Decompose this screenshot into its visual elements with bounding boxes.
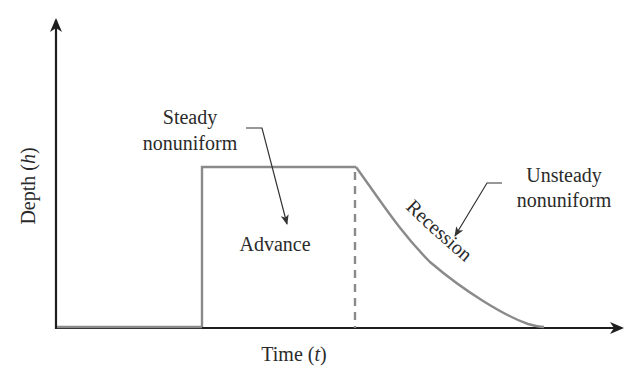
y-axis-label-close: ) (17, 147, 40, 154)
depth-time-diagram: Steady nonuniform Unsteady nonuniform Ad… (0, 0, 638, 388)
steady-label-line2: nonuniform (143, 132, 238, 154)
steady-leader-arrow (246, 128, 287, 224)
unsteady-label-line1: Unsteady (526, 164, 602, 187)
leaders (246, 128, 502, 236)
advance-label: Advance (239, 233, 310, 255)
recession-label-text: Recession (402, 195, 477, 265)
x-axis-label-main: Time ( (261, 343, 315, 366)
x-axis-label: Time (t) (261, 343, 326, 366)
y-axis-label-var: h (17, 154, 39, 164)
unsteady-leader-arrow (455, 183, 502, 236)
steady-label-line1: Steady (163, 106, 217, 129)
y-axis-label-main: Depth ( (17, 164, 40, 225)
unsteady-label-line2: nonuniform (517, 189, 612, 211)
x-axis-label-close: ) (320, 343, 327, 366)
y-axis-label: Depth (h) (17, 147, 40, 224)
recession-label: Recession (402, 195, 477, 265)
